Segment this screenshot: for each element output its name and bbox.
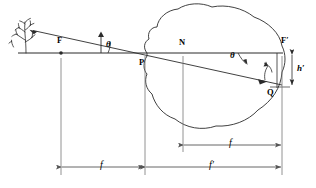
label-rear-focal-length: f′ bbox=[209, 160, 214, 170]
angle-theta-image bbox=[238, 53, 248, 65]
label-principal-point: P bbox=[139, 58, 144, 67]
label-nodal-point: N bbox=[179, 38, 185, 47]
label-angle-theta-object: θ bbox=[106, 40, 111, 49]
tree-object bbox=[9, 18, 35, 53]
figure-canvas: F P N F′ Q θ θ h′ f f f′ bbox=[0, 0, 316, 188]
angle-bracket-image-plane bbox=[264, 62, 273, 81]
label-angle-theta-image: θ bbox=[230, 51, 235, 60]
label-front-focal-length: f bbox=[100, 160, 103, 170]
label-image-point-Q: Q bbox=[267, 88, 274, 97]
label-rear-focal-length-inner: f bbox=[229, 138, 232, 148]
incident-ray-from-tree bbox=[30, 30, 283, 85]
point-markers bbox=[59, 51, 63, 55]
label-front-focal-point: F bbox=[57, 36, 62, 45]
dimension-extension-lines bbox=[61, 56, 282, 175]
label-rear-focal-point: F′ bbox=[281, 36, 289, 45]
label-image-height: h′ bbox=[297, 64, 305, 73]
point-F bbox=[59, 51, 63, 55]
